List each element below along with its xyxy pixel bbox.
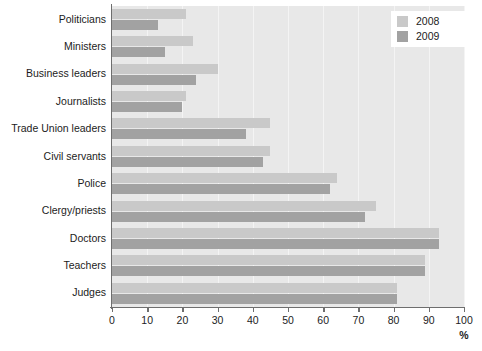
- bar-2008: [112, 255, 425, 265]
- bar-2008: [112, 146, 270, 156]
- bar-group: [112, 280, 464, 307]
- x-axis-tick: [429, 307, 430, 312]
- bar-2009: [112, 239, 439, 249]
- bar-group: [112, 225, 464, 252]
- x-axis-tick: [218, 307, 219, 312]
- y-axis-label: Ministers: [0, 41, 106, 52]
- bar-group: [112, 115, 464, 142]
- legend-swatch-2008: [397, 16, 408, 27]
- x-axis-tick-label: 90: [423, 314, 435, 326]
- x-axis-tick-label: 80: [388, 314, 400, 326]
- bar-group: [112, 61, 464, 88]
- y-axis-label: Teachers: [0, 260, 106, 271]
- x-axis-tick: [358, 307, 359, 312]
- y-axis-label: Doctors: [0, 233, 106, 244]
- x-axis-tick-label: 70: [353, 314, 365, 326]
- bar-group: [112, 170, 464, 197]
- bar-rows: [112, 6, 464, 307]
- x-axis-tick-label: 20: [177, 314, 189, 326]
- bar-2008: [112, 173, 337, 183]
- y-axis-label: Trade Union leaders: [0, 123, 106, 134]
- legend-item: 2009: [397, 29, 464, 44]
- legend: 2008 2009: [391, 11, 469, 47]
- x-axis-tick: [253, 307, 254, 312]
- x-axis-tick: [288, 307, 289, 312]
- x-axis-tick: [112, 307, 113, 312]
- x-axis-tick-label: 50: [282, 314, 294, 326]
- y-axis-label: Politicians: [0, 14, 106, 25]
- bar-2008: [112, 283, 397, 293]
- legend-item: 2008: [397, 14, 464, 29]
- x-axis-tick-label: 10: [141, 314, 153, 326]
- x-axis-tick-labels: 0102030405060708090100%: [0, 307, 482, 351]
- bar-2009: [112, 294, 397, 304]
- x-axis-tick-label: 40: [247, 314, 259, 326]
- bar-2008: [112, 36, 193, 46]
- bar-2008: [112, 201, 376, 211]
- bar-2008: [112, 9, 186, 19]
- bar-2009: [112, 47, 165, 57]
- bar-2009: [112, 157, 263, 167]
- x-axis-tick: [182, 307, 183, 312]
- y-axis-label: Civil servants: [0, 151, 106, 162]
- bar-2009: [112, 129, 246, 139]
- y-axis-category-labels: PoliticiansMinistersBusiness leadersJour…: [0, 6, 106, 307]
- x-axis-tick: [394, 307, 395, 312]
- legend-label-2009: 2009: [416, 31, 439, 42]
- x-axis-tick-label: 0: [109, 314, 115, 326]
- bar-group: [112, 198, 464, 225]
- bar-group: [112, 88, 464, 115]
- bar-2009: [112, 102, 182, 112]
- x-axis-unit-label: %: [459, 329, 468, 341]
- plot-area: [112, 6, 464, 307]
- gridline: [464, 6, 465, 307]
- bar-2009: [112, 75, 196, 85]
- y-axis-label: Judges: [0, 287, 106, 298]
- bar-chart: PoliticiansMinistersBusiness leadersJour…: [0, 0, 482, 351]
- x-axis-tick: [147, 307, 148, 312]
- y-axis-line: [111, 4, 112, 309]
- bar-group: [112, 143, 464, 170]
- bar-group: [112, 252, 464, 279]
- bar-2009: [112, 266, 425, 276]
- bar-2008: [112, 64, 218, 74]
- bar-2008: [112, 228, 439, 238]
- bar-2008: [112, 118, 270, 128]
- x-axis-tick: [323, 307, 324, 312]
- x-axis-tick-label: 100: [455, 314, 473, 326]
- y-axis-label: Business leaders: [0, 68, 106, 79]
- y-axis-label: Police: [0, 178, 106, 189]
- legend-label-2008: 2008: [416, 16, 439, 27]
- x-axis-tick: [464, 307, 465, 312]
- legend-swatch-2009: [397, 31, 408, 42]
- y-axis-label: Journalists: [0, 96, 106, 107]
- bar-2009: [112, 184, 330, 194]
- x-axis-tick-label: 60: [317, 314, 329, 326]
- bar-2009: [112, 20, 158, 30]
- bar-2009: [112, 212, 365, 222]
- bar-2008: [112, 91, 186, 101]
- y-axis-label: Clergy/priests: [0, 205, 106, 216]
- x-axis-tick-label: 30: [212, 314, 224, 326]
